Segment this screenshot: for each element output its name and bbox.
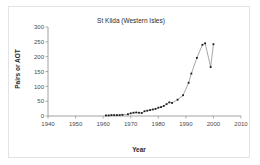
- axis-tick-marks: [46, 27, 242, 119]
- y-tick-label: 0: [41, 113, 45, 119]
- x-tick-label: 1970: [124, 121, 138, 127]
- data-point: [157, 107, 159, 109]
- y-tick-label: 300: [34, 24, 45, 30]
- x-tick-label: 1950: [69, 121, 83, 127]
- chart-plot-area: St Kilda (Western Isles) 050100150200250…: [9, 7, 249, 157]
- y-tick-label: 150: [34, 69, 45, 75]
- data-point: [177, 99, 179, 101]
- data-point: [138, 112, 140, 114]
- data-point: [163, 105, 165, 107]
- data-point: [168, 101, 170, 103]
- data-point: [149, 109, 151, 111]
- data-point: [141, 112, 143, 114]
- y-axis-title: Pairs or AOT: [14, 49, 21, 89]
- y-tick-label: 50: [37, 98, 44, 104]
- x-tick-label: 1940: [41, 121, 55, 127]
- data-point: [113, 114, 115, 116]
- data-series-markers: [105, 42, 214, 116]
- data-point: [119, 114, 121, 116]
- x-tick-label: 1960: [96, 121, 110, 127]
- x-axis-title: Year: [132, 146, 146, 153]
- data-point: [135, 112, 137, 114]
- data-point: [160, 106, 162, 108]
- data-point: [105, 115, 107, 117]
- x-tick-label: 1980: [152, 121, 166, 127]
- data-point: [116, 114, 118, 116]
- data-point: [127, 113, 129, 115]
- data-point: [111, 114, 113, 116]
- data-point: [202, 44, 204, 46]
- y-axis-tick-labels: 050100150200250300: [34, 24, 45, 119]
- data-point: [204, 42, 206, 44]
- data-point: [130, 112, 132, 114]
- data-series-line: [106, 43, 214, 115]
- data-point: [152, 109, 154, 111]
- data-point: [133, 112, 135, 114]
- x-tick-label: 2010: [234, 121, 248, 127]
- data-point: [190, 73, 192, 75]
- data-point: [155, 108, 157, 110]
- x-tick-label: 2000: [207, 121, 221, 127]
- chart-figure: St Kilda (Western Isles) 050100150200250…: [8, 6, 250, 158]
- data-point: [171, 102, 173, 104]
- data-point: [210, 66, 212, 68]
- y-tick-label: 250: [34, 39, 45, 45]
- y-tick-label: 100: [34, 84, 45, 90]
- data-point: [122, 114, 124, 116]
- data-point: [146, 110, 148, 112]
- y-tick-label: 200: [34, 54, 45, 60]
- data-point: [213, 43, 215, 45]
- x-tick-label: 1990: [179, 121, 193, 127]
- data-point: [182, 94, 184, 96]
- data-point: [144, 110, 146, 112]
- data-point: [196, 57, 198, 59]
- chart-title: St Kilda (Western Isles): [97, 17, 165, 25]
- data-point: [166, 103, 168, 105]
- x-axis-tick-labels: 19401950196019701980199020002010: [41, 121, 248, 127]
- data-point: [108, 115, 110, 117]
- data-point: [188, 82, 190, 84]
